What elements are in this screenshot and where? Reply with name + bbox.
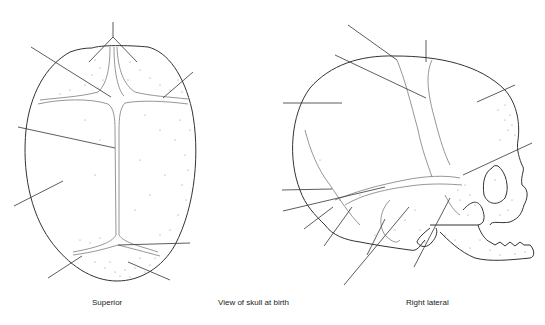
superior-view bbox=[14, 22, 196, 281]
lateral-cranium-outline bbox=[293, 56, 519, 190]
lateral-orbit-outline bbox=[483, 166, 507, 204]
lateral-face-outline bbox=[490, 140, 527, 225]
superior-sutures bbox=[38, 47, 188, 256]
lateral-stipple bbox=[320, 105, 526, 256]
lateral-occipital-outline bbox=[300, 190, 425, 250]
lateral-mandible-outline bbox=[440, 225, 534, 260]
diagram-canvas bbox=[0, 0, 545, 325]
lateral-caption: Right lateral bbox=[406, 298, 449, 307]
lateral-mastoid-outline bbox=[417, 228, 437, 247]
diagram-title: View of skull at birth bbox=[218, 298, 289, 307]
lateral-leader-lines bbox=[282, 25, 532, 285]
lateral-sutures bbox=[305, 60, 462, 242]
skull-diagram: Superior View of skull at birth Right la… bbox=[0, 0, 545, 325]
superior-skull-outline bbox=[25, 46, 196, 281]
lateral-view bbox=[282, 25, 534, 285]
superior-caption: Superior bbox=[92, 298, 122, 307]
superior-leader-lines bbox=[14, 22, 193, 280]
